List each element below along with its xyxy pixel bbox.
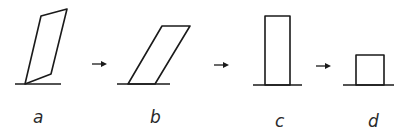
shape-d-square	[356, 55, 384, 85]
shape-a-parallelogram	[25, 9, 67, 84]
transformation-diagram: a b c d	[0, 0, 404, 136]
label-a: a	[33, 107, 43, 127]
shape-c-tall-rectangle	[265, 16, 290, 85]
arrow-right-icon	[223, 62, 229, 68]
arrow-b-to-c	[214, 62, 229, 68]
label-d: d	[368, 111, 379, 131]
label-b: b	[150, 107, 161, 127]
panel-c: c	[253, 16, 302, 131]
label-c: c	[275, 111, 285, 131]
arrow-a-to-b	[92, 61, 107, 67]
arrow-right-icon	[101, 61, 107, 67]
shape-b-parallelogram	[128, 26, 190, 84]
arrow-right-icon	[325, 63, 331, 69]
panel-a: a	[15, 9, 67, 127]
arrow-c-to-d	[316, 63, 331, 69]
panel-d: d	[343, 55, 394, 131]
panel-b: b	[117, 26, 190, 127]
